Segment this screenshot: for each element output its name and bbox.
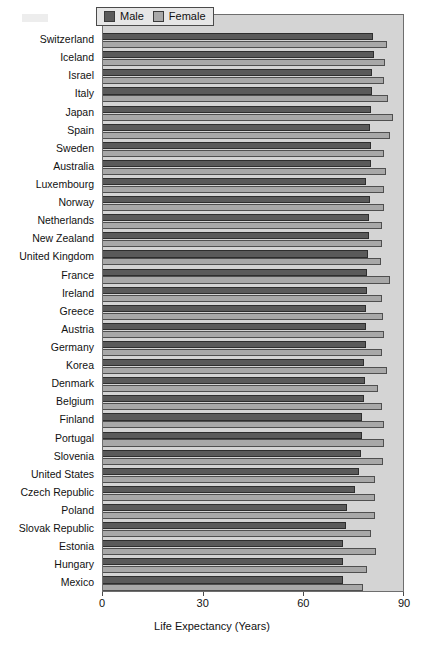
category-label: Belgium bbox=[56, 396, 94, 407]
bar-male bbox=[103, 359, 364, 366]
bar-male bbox=[103, 33, 373, 40]
category-label: Portugal bbox=[55, 433, 94, 444]
bar-female bbox=[103, 95, 388, 102]
bar-male bbox=[103, 395, 364, 402]
bar-male bbox=[103, 576, 343, 583]
bar-male bbox=[103, 558, 343, 565]
bar-male bbox=[103, 450, 361, 457]
x-tick-mark bbox=[203, 592, 204, 596]
x-tick-mark bbox=[403, 592, 404, 596]
category-label: Estonia bbox=[59, 541, 94, 552]
bar-male bbox=[103, 540, 343, 547]
x-tick-label: 90 bbox=[398, 597, 410, 609]
category-label: Norway bbox=[58, 197, 94, 208]
category-label: Ireland bbox=[62, 288, 94, 299]
category-label: Luxembourg bbox=[36, 179, 94, 190]
bar-male bbox=[103, 142, 371, 149]
category-label: United Kingdom bbox=[19, 251, 94, 262]
bar-female bbox=[103, 77, 384, 84]
category-label: Poland bbox=[61, 505, 94, 516]
category-label: Spain bbox=[67, 125, 94, 136]
x-tick-label: 0 bbox=[99, 597, 105, 609]
bar-female bbox=[103, 276, 390, 283]
category-label: Australia bbox=[53, 161, 94, 172]
category-label: United States bbox=[31, 469, 94, 480]
category-label: Switzerland bbox=[40, 34, 94, 45]
bar-female bbox=[103, 222, 382, 229]
bar-female bbox=[103, 421, 384, 428]
bar-male bbox=[103, 69, 372, 76]
bar-female bbox=[103, 168, 386, 175]
x-tick-label: 60 bbox=[297, 597, 309, 609]
bar-female bbox=[103, 512, 375, 519]
category-label: New Zealand bbox=[32, 233, 94, 244]
legend-swatch-male-icon bbox=[104, 11, 115, 22]
bar-female bbox=[103, 132, 390, 139]
bar-male bbox=[103, 413, 362, 420]
category-label: Austria bbox=[61, 324, 94, 335]
bar-male bbox=[103, 341, 366, 348]
bar-male bbox=[103, 250, 368, 257]
bar-female bbox=[103, 439, 384, 446]
bar-female bbox=[103, 367, 387, 374]
chart-legend: Male Female bbox=[96, 7, 214, 26]
bar-male bbox=[103, 468, 359, 475]
bar-female bbox=[103, 349, 382, 356]
bar-rows bbox=[103, 15, 403, 591]
category-label: Slovenia bbox=[54, 451, 94, 462]
category-label: Mexico bbox=[61, 577, 94, 588]
bar-female bbox=[103, 59, 385, 66]
bar-female bbox=[103, 295, 382, 302]
x-tick-mark bbox=[303, 592, 304, 596]
legend-label-female: Female bbox=[169, 11, 206, 22]
bar-male bbox=[103, 232, 369, 239]
plot-area bbox=[102, 14, 404, 592]
category-label: Czech Republic bbox=[20, 487, 94, 498]
x-tick-mark bbox=[102, 592, 103, 596]
x-tick-label: 30 bbox=[197, 597, 209, 609]
bar-male bbox=[103, 51, 374, 58]
category-label: France bbox=[61, 270, 94, 281]
bar-female bbox=[103, 204, 384, 211]
bar-male bbox=[103, 486, 355, 493]
bar-female bbox=[103, 476, 375, 483]
bar-male bbox=[103, 287, 367, 294]
category-label: Sweden bbox=[56, 143, 94, 154]
legend-entry-female: Female bbox=[153, 11, 206, 22]
category-axis-labels: SwitzerlandIcelandIsraelItalyJapanSpainS… bbox=[0, 14, 98, 592]
bar-female bbox=[103, 385, 378, 392]
life-expectancy-bar-chart: SwitzerlandIcelandIsraelItalyJapanSpainS… bbox=[0, 0, 424, 645]
bar-female bbox=[103, 548, 376, 555]
bar-male bbox=[103, 124, 370, 131]
bar-male bbox=[103, 522, 346, 529]
bar-male bbox=[103, 377, 365, 384]
category-label: Israel bbox=[68, 70, 94, 81]
bar-female bbox=[103, 114, 393, 121]
category-label: Iceland bbox=[60, 52, 94, 63]
bar-male bbox=[103, 432, 362, 439]
category-label: Denmark bbox=[51, 378, 94, 389]
bar-male bbox=[103, 504, 347, 511]
bar-female bbox=[103, 313, 383, 320]
bar-female bbox=[103, 403, 382, 410]
category-label: Hungary bbox=[54, 559, 94, 570]
bar-male bbox=[103, 323, 366, 330]
bar-female bbox=[103, 186, 384, 193]
legend-label-male: Male bbox=[120, 11, 144, 22]
category-label: Netherlands bbox=[37, 215, 94, 226]
bar-female bbox=[103, 258, 381, 265]
category-label: Slovak Republic bbox=[19, 523, 94, 534]
category-label: Germany bbox=[51, 342, 94, 353]
bar-male bbox=[103, 87, 372, 94]
category-label: Greece bbox=[60, 306, 94, 317]
bar-male bbox=[103, 160, 371, 167]
bar-male bbox=[103, 106, 371, 113]
legend-swatch-female-icon bbox=[153, 11, 164, 22]
legend-entry-male: Male bbox=[104, 11, 144, 22]
bar-male bbox=[103, 196, 370, 203]
value-axis: 0306090 bbox=[102, 592, 404, 612]
category-label: Korea bbox=[66, 360, 94, 371]
bar-female bbox=[103, 494, 375, 501]
category-label: Japan bbox=[65, 107, 94, 118]
bar-male bbox=[103, 269, 367, 276]
